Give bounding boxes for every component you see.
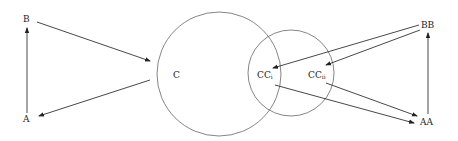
node-label-a: A <box>22 114 30 124</box>
node-label-bb: BB <box>421 20 435 30</box>
node-label-ccii: CCii <box>308 70 326 80</box>
node-label-c: C <box>173 70 180 80</box>
node-label-aa: AA <box>419 117 433 127</box>
arrow-cci-to-aa <box>275 85 414 123</box>
node-label-b: B <box>23 14 30 24</box>
node-label-cci: CCi <box>257 70 273 80</box>
diagram-canvas: B A C CCi CCii BB AA <box>0 0 458 141</box>
arrow-c-to-a <box>39 80 150 116</box>
arrow-bb-to-cci <box>273 25 419 68</box>
arrow-b-to-c <box>37 22 150 61</box>
arrow-bb-to-ccii <box>326 30 420 65</box>
